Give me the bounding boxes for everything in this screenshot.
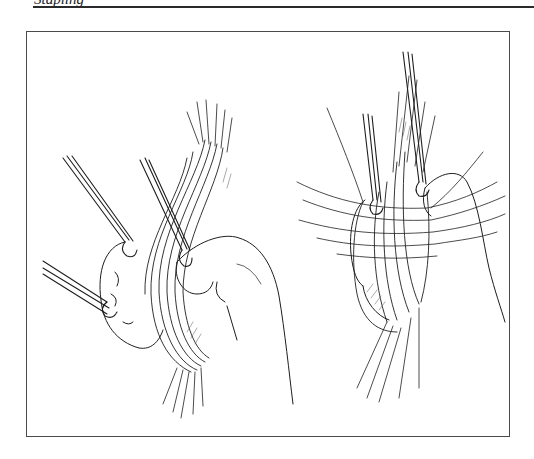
strands-upper-right [393, 76, 435, 172]
strands-lower-right [357, 308, 419, 402]
left-panel-illustration [43, 100, 293, 418]
vessel-bundle-left [145, 140, 223, 372]
hand-left-panel [176, 236, 293, 404]
vessel-bundle-right [354, 152, 429, 332]
tissue-lobe-right [351, 200, 389, 320]
retractor-left-upper [63, 156, 137, 257]
retractor-right-left [363, 114, 383, 214]
surgical-illustration [27, 32, 511, 438]
retractor-middle [140, 158, 192, 266]
strands-upper-left [187, 100, 232, 152]
right-panel-illustration [297, 52, 505, 402]
figure-frame [26, 31, 510, 437]
hand-right-panel [423, 173, 505, 322]
retractor-right-right [403, 52, 429, 196]
strands-lower-left [163, 368, 203, 418]
header-rule [33, 6, 534, 8]
tissue-lobe-left [100, 242, 163, 348]
retractor-left-lower [43, 261, 117, 317]
sutures-right [297, 108, 505, 258]
